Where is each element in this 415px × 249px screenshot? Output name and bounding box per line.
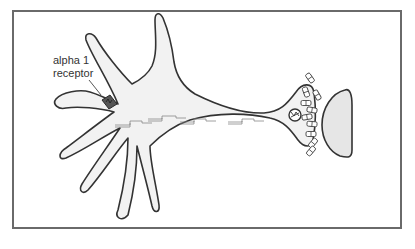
vesicle [302, 114, 313, 121]
receptor-label-line2: receptor [53, 67, 94, 79]
vesicle [307, 121, 317, 127]
receptor-label-line1: alpha 1 [53, 54, 89, 66]
vesicle [301, 101, 311, 106]
neuron-diagram: alpha 1 receptor [0, 0, 415, 249]
mitochondrion [289, 109, 301, 121]
vesicle [306, 132, 316, 137]
vesicle [307, 107, 318, 114]
